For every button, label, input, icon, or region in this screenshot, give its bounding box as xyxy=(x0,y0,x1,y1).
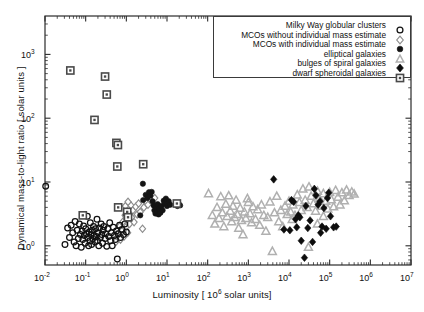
data-point xyxy=(115,204,122,211)
data-point xyxy=(220,222,228,229)
data-point xyxy=(149,189,154,194)
data-point xyxy=(111,224,117,230)
data-point xyxy=(168,202,173,207)
data-point xyxy=(67,67,74,74)
data-point xyxy=(114,141,121,148)
data-point xyxy=(140,181,145,186)
data-point xyxy=(173,200,180,207)
legend-marker-open-diamond-icon xyxy=(394,31,406,41)
legend-marker-open-triangle-icon xyxy=(394,50,406,60)
legend-label: elliptical galaxies xyxy=(324,49,386,59)
data-point xyxy=(287,227,293,235)
legend-label: MCOs without individual mass estimate xyxy=(241,30,386,40)
data-point xyxy=(232,196,240,203)
data-point xyxy=(91,116,98,123)
data-point xyxy=(114,256,120,262)
data-point xyxy=(79,212,86,219)
y-tick-label: 103 xyxy=(21,48,35,60)
data-point xyxy=(104,244,110,250)
data-point xyxy=(270,176,276,184)
x-tick-label: 107 xyxy=(400,271,414,283)
series-elliptical-galaxies xyxy=(205,183,359,255)
data-point xyxy=(327,213,333,221)
y-tick-label: 100 xyxy=(21,240,35,252)
data-point xyxy=(205,189,213,196)
data-point xyxy=(124,214,131,221)
data-point xyxy=(321,204,327,212)
x-tick-label: 102 xyxy=(197,271,211,283)
data-point xyxy=(281,226,287,234)
data-point xyxy=(257,201,265,208)
data-point xyxy=(309,238,315,246)
data-point xyxy=(102,73,109,80)
data-point xyxy=(311,185,317,193)
legend-marker-filled-diamond-icon xyxy=(394,59,406,69)
data-point xyxy=(103,91,110,98)
data-points xyxy=(43,67,358,262)
legend-label: dwarf spheroidal galaxies xyxy=(292,68,386,78)
data-point xyxy=(208,211,216,218)
y-axis-title: Dynamical mass-to-light ratio [ solar un… xyxy=(15,67,26,250)
data-point xyxy=(273,192,281,199)
legend-box: Milky Way globular clustersMCOs without … xyxy=(213,16,411,78)
x-tick-label: 103 xyxy=(237,271,251,283)
data-point xyxy=(213,203,221,210)
legend-label: Milky Way globular clusters xyxy=(286,20,386,30)
x-tick-label: 104 xyxy=(278,271,292,283)
data-point xyxy=(114,163,121,170)
data-point xyxy=(301,254,307,262)
y-tick-label: 101 xyxy=(21,176,35,188)
data-point xyxy=(225,192,233,199)
x-tick-label: 106 xyxy=(359,271,373,283)
x-axis-title-pre: Luminosity [ 10 xyxy=(152,289,217,300)
data-point xyxy=(62,242,68,248)
data-point xyxy=(298,237,304,245)
data-point xyxy=(139,225,145,232)
x-tick-label: 105 xyxy=(319,271,333,283)
y-tick-label: 102 xyxy=(21,112,35,124)
legend-label: MCOs with individual mass estimate xyxy=(253,39,386,49)
data-point xyxy=(340,197,348,204)
x-axis-title-post: solar units] xyxy=(222,289,272,300)
legend-marker-filled-circle-icon xyxy=(394,40,406,50)
data-point xyxy=(138,213,143,218)
figure-scatter-plot: Dynamical mass-to-light ratio [ solar un… xyxy=(0,0,424,312)
data-point xyxy=(160,208,165,213)
data-point xyxy=(307,217,313,225)
x-tick-label: 10-2 xyxy=(34,271,50,283)
data-point xyxy=(268,247,276,254)
data-point xyxy=(317,229,323,237)
data-point xyxy=(217,192,225,199)
x-axis-title: Luminosity [ 106 solar units] xyxy=(0,288,424,300)
data-point xyxy=(140,161,147,168)
x-tick-label: 101 xyxy=(156,271,170,283)
data-point xyxy=(396,74,403,81)
data-point xyxy=(305,224,311,232)
x-tick-label: 100 xyxy=(115,271,129,283)
x-tick-label: 10-1 xyxy=(75,271,91,283)
data-point xyxy=(222,200,230,207)
legend-label: bulges of spiral galaxies xyxy=(297,58,386,68)
legend-item: dwarf spheroidal galaxies xyxy=(214,69,412,79)
data-point xyxy=(294,224,300,232)
legend-marker-square-dot-icon xyxy=(394,69,406,79)
series-milky-way-globular-clusters xyxy=(43,183,129,262)
legend-marker-open-circle-icon xyxy=(394,21,406,31)
data-point xyxy=(319,212,327,219)
